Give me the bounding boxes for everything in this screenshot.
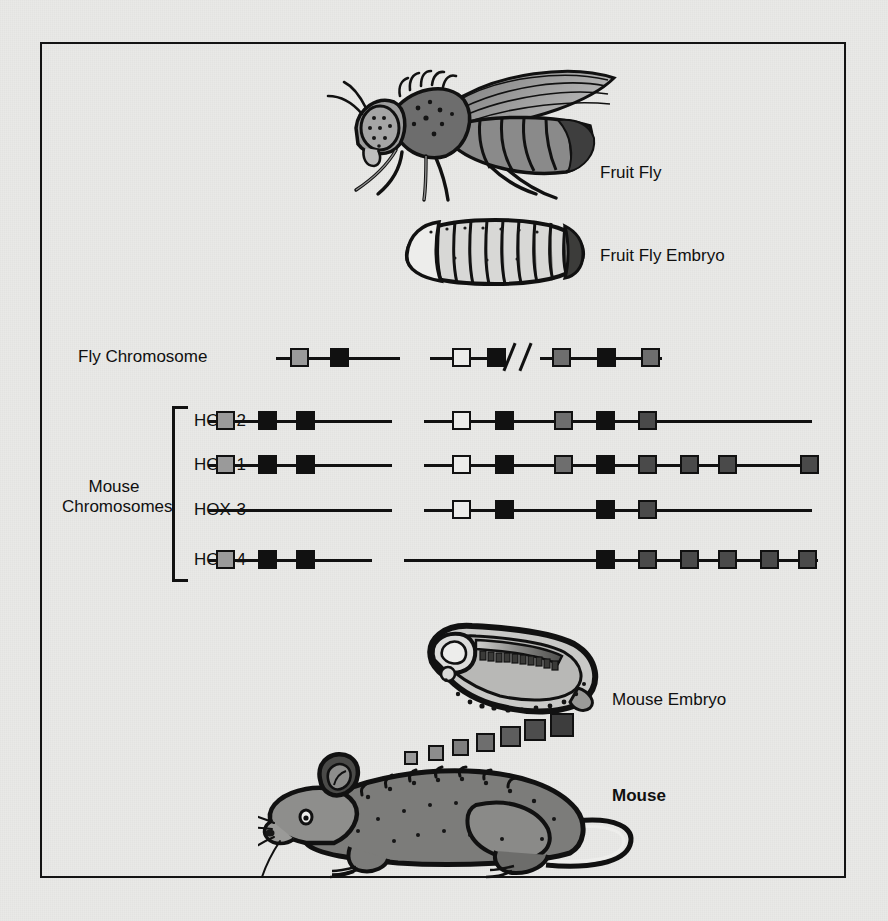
gene-box-black[interactable] bbox=[596, 550, 615, 569]
gene-box-light-gray[interactable] bbox=[216, 455, 235, 474]
mouse-chromosomes-label-line1: Mouse bbox=[62, 477, 166, 497]
gene-box-light-gray[interactable] bbox=[216, 550, 235, 569]
mouse-chromosomes-bracket bbox=[172, 406, 188, 582]
gene-box-black[interactable] bbox=[296, 550, 315, 569]
fly-chromosome-label: Fly Chromosome bbox=[78, 347, 207, 367]
gene-box-dark-gray[interactable] bbox=[638, 500, 657, 519]
gene-box-black[interactable] bbox=[258, 455, 277, 474]
gene-box-white[interactable] bbox=[452, 348, 471, 367]
gene-box-dark-gray[interactable] bbox=[638, 550, 657, 569]
gene-box-dark-gray[interactable] bbox=[638, 455, 657, 474]
gene-box-dark-gray[interactable] bbox=[680, 455, 699, 474]
gene-box-black[interactable] bbox=[296, 411, 315, 430]
gene-box-white[interactable] bbox=[452, 455, 471, 474]
gene-box-black[interactable] bbox=[258, 550, 277, 569]
gene-box-dark-gray[interactable] bbox=[760, 550, 779, 569]
gene-box-dark-gray[interactable] bbox=[680, 550, 699, 569]
chromosome-line-segment bbox=[424, 420, 812, 423]
chromosome-line-segment bbox=[424, 464, 818, 467]
gene-box-black[interactable] bbox=[258, 411, 277, 430]
chromosome-line-segment bbox=[208, 509, 392, 512]
gene-box-dark-gray[interactable] bbox=[638, 411, 657, 430]
mouse-chromosomes-label-line2: Chromosomes bbox=[62, 497, 166, 517]
gene-box-light-gray[interactable] bbox=[290, 348, 309, 367]
gene-box-black[interactable] bbox=[495, 411, 514, 430]
gene-box-white[interactable] bbox=[452, 500, 471, 519]
mouse-back-square bbox=[550, 713, 574, 737]
gene-box-dark-gray[interactable] bbox=[800, 455, 819, 474]
mouse-label: Mouse bbox=[612, 786, 666, 806]
gene-box-dark-gray[interactable] bbox=[718, 455, 737, 474]
gene-box-mid-gray[interactable] bbox=[554, 455, 573, 474]
gene-box-black[interactable] bbox=[596, 411, 615, 430]
gene-box-white[interactable] bbox=[452, 411, 471, 430]
fruit-fly-embryo-label: Fruit Fly Embryo bbox=[600, 246, 725, 266]
mouse-embryo-illustration bbox=[398, 618, 628, 723]
fruit-fly-embryo-illustration bbox=[395, 212, 610, 292]
gene-box-mid-gray[interactable] bbox=[641, 348, 660, 367]
gene-box-mid-gray[interactable] bbox=[552, 348, 571, 367]
gene-box-black[interactable] bbox=[495, 500, 514, 519]
gene-box-mid-gray[interactable] bbox=[554, 411, 573, 430]
gene-box-dark-gray[interactable] bbox=[798, 550, 817, 569]
gene-box-black[interactable] bbox=[596, 455, 615, 474]
mouse-embryo-label: Mouse Embryo bbox=[612, 690, 726, 710]
gene-box-light-gray[interactable] bbox=[216, 411, 235, 430]
mouse-chromosomes-label: Mouse Chromosomes bbox=[62, 477, 166, 517]
gene-box-black[interactable] bbox=[495, 455, 514, 474]
mouse-illustration bbox=[258, 735, 638, 880]
gene-box-black[interactable] bbox=[596, 500, 615, 519]
gene-box-black[interactable] bbox=[487, 348, 506, 367]
chromosome-line-segment bbox=[424, 509, 812, 512]
gene-box-black[interactable] bbox=[296, 455, 315, 474]
fruit-fly-illustration bbox=[322, 52, 622, 207]
fruit-fly-label: Fruit Fly bbox=[600, 163, 661, 183]
gene-box-dark-gray[interactable] bbox=[718, 550, 737, 569]
gene-box-black[interactable] bbox=[330, 348, 349, 367]
gene-box-black[interactable] bbox=[597, 348, 616, 367]
